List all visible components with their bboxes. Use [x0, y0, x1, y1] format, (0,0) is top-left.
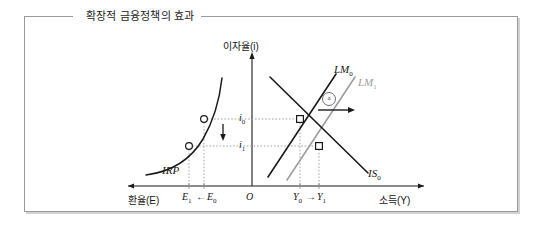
- frame-shadow-right: [518, 18, 520, 214]
- x-axis-label-left: 환율(E): [128, 192, 159, 207]
- x-axis-label-right: 소득(Y): [379, 192, 410, 207]
- e-decrease-arrow: ←: [196, 191, 206, 202]
- origin-label: O: [246, 191, 253, 202]
- lm-shift-arrow: [318, 107, 355, 113]
- marker-equilibrium-0: [297, 116, 304, 123]
- marker-irp-E1: [186, 143, 193, 150]
- value-label-y1: Y1: [317, 191, 326, 205]
- marker-irp-E0: [201, 116, 208, 123]
- value-label-i0: i0: [239, 112, 245, 126]
- value-label-i1: i1: [239, 139, 245, 153]
- x-axis-arrow-left: [128, 183, 134, 188]
- shift-annotation-circle: a: [322, 92, 336, 106]
- curve-IS0: [270, 77, 368, 173]
- curve-label-lm0: LM0: [334, 63, 353, 78]
- value-label-y0: Y0: [293, 191, 302, 205]
- curve-LM1: [287, 77, 355, 180]
- figure-frame: 확장적 금융정책의 효과: [24, 16, 518, 212]
- curve-label-is0: IS0: [368, 167, 381, 182]
- value-label-e1: E1: [182, 191, 192, 205]
- curve-label-lm1: LM1: [358, 76, 377, 91]
- curve-IRP: [146, 78, 222, 175]
- y-axis-label: 이자율(i): [223, 38, 259, 53]
- chart-plot-area: a 이자율(i) IRP LM0 LM1 IS0 i0 i1 E1 ← E0 O…: [24, 16, 518, 212]
- curve-label-irp: IRP: [162, 164, 179, 176]
- chart-svg: [24, 16, 518, 212]
- i-decrease-arrow: [220, 124, 226, 141]
- frame-shadow-bottom: [26, 212, 520, 214]
- y-axis-arrow-up: [249, 52, 254, 59]
- value-label-e0: E0: [207, 191, 217, 205]
- y-increase-arrow: →: [306, 191, 316, 202]
- x-axis-arrow-right: [418, 183, 424, 188]
- curve-LM0: [268, 74, 336, 177]
- marker-equilibrium-1: [316, 143, 323, 150]
